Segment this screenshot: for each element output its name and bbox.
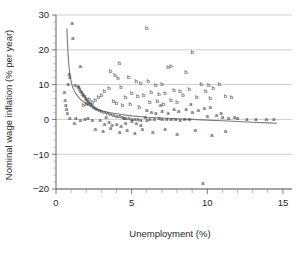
data-point-a: a: [224, 127, 228, 134]
data-point-a: a: [227, 114, 231, 121]
data-point-a: a: [272, 115, 276, 122]
data-point-b: b: [116, 74, 120, 81]
data-point-b: b: [124, 93, 128, 100]
data-point-a: a: [215, 111, 219, 118]
data-point-b: b: [209, 94, 213, 101]
data-point-a: a: [203, 104, 207, 111]
y-tick-label: 10: [38, 79, 49, 90]
data-point-b: b: [103, 87, 107, 94]
data-point-b: b: [137, 103, 141, 110]
data-point-a: a: [163, 125, 167, 132]
x-tick-label: 10: [202, 197, 213, 208]
data-point-a: a: [236, 114, 240, 121]
data-point-a: a: [166, 109, 170, 116]
data-point-a: a: [206, 112, 210, 119]
data-point-b: b: [109, 67, 113, 74]
data-point-b: b: [147, 77, 151, 84]
data-point-b: b: [139, 79, 143, 86]
data-point-a: a: [184, 105, 188, 112]
data-point-b: b: [162, 100, 166, 107]
data-point-b: b: [150, 88, 154, 95]
data-point-a: a: [144, 113, 148, 120]
data-point-a: a: [169, 115, 173, 122]
data-point-b: b: [190, 48, 194, 55]
data-point-a: a: [233, 113, 237, 120]
data-point-a: a: [134, 119, 138, 126]
data-point-a: a: [125, 126, 129, 133]
data-point-a: a: [71, 34, 75, 41]
data-point-b: b: [204, 87, 208, 94]
data-point-a: a: [160, 107, 164, 114]
data-point-b: b: [100, 91, 104, 98]
data-point-b: b: [94, 96, 98, 103]
y-tick-label: 30: [38, 9, 49, 20]
data-point-b: b: [82, 101, 86, 108]
x-tick-label: 5: [129, 197, 134, 208]
data-point-b: b: [160, 80, 164, 87]
data-point-b: b: [121, 101, 125, 108]
data-point-a: a: [196, 106, 200, 113]
data-point-b: b: [130, 89, 134, 96]
data-point-a: a: [115, 120, 119, 127]
data-point-b: b: [148, 98, 152, 105]
y-tick-label: 20: [38, 44, 49, 55]
data-point-b: b: [145, 24, 149, 31]
data-point-b: b: [187, 85, 191, 92]
data-point-b: b: [91, 98, 95, 105]
data-point-a: a: [141, 125, 145, 132]
data-point-a: a: [265, 115, 269, 122]
data-point-b: b: [169, 62, 173, 69]
data-point-b: b: [230, 93, 234, 100]
data-point-b: b: [136, 92, 140, 99]
data-point-a: a: [210, 131, 214, 138]
data-point-a: a: [183, 115, 187, 122]
data-point-a: a: [150, 108, 154, 115]
data-point-a: a: [86, 114, 90, 121]
data-point-a: a: [209, 103, 213, 110]
data-point-a: a: [72, 119, 76, 126]
data-point-b: b: [184, 68, 188, 75]
data-point-a: a: [63, 88, 67, 95]
data-point-b: b: [172, 86, 176, 93]
data-point-a: a: [118, 128, 122, 135]
data-point-a: a: [109, 124, 113, 131]
data-point-a: a: [174, 115, 178, 122]
data-point-b: b: [118, 59, 122, 66]
data-point-b: b: [128, 100, 132, 107]
data-point-b: b: [169, 96, 173, 103]
data-point-a: a: [151, 128, 155, 135]
data-point-b: b: [127, 73, 131, 80]
data-point-b: b: [212, 84, 216, 91]
data-point-a: a: [94, 125, 98, 132]
data-point-a: a: [148, 115, 152, 122]
data-point-a: a: [91, 116, 95, 123]
data-point-a: a: [254, 115, 258, 122]
data-point-a: a: [245, 115, 249, 122]
data-point-b: b: [134, 77, 138, 84]
x-tick-label: 15: [278, 197, 289, 208]
y-tick-label: 0: [44, 114, 49, 125]
data-point-b: b: [175, 98, 179, 105]
data-point-a: a: [193, 126, 197, 133]
data-point-b: b: [224, 92, 228, 99]
data-point-a: a: [98, 116, 102, 123]
data-point-b: b: [107, 84, 111, 91]
data-point-b: b: [163, 89, 167, 96]
x-tick-label: 0: [53, 197, 58, 208]
data-point-a: a: [172, 105, 176, 112]
data-point-b: b: [115, 99, 119, 106]
data-point-a: a: [177, 107, 181, 114]
data-point-a: a: [190, 108, 194, 115]
x-axis-title: Unemployment (%): [129, 228, 210, 239]
data-point-b: b: [156, 97, 160, 104]
data-point-a: a: [189, 100, 193, 107]
data-point-a: a: [133, 129, 137, 136]
data-point-a: a: [68, 114, 72, 121]
data-point-a: a: [175, 130, 179, 137]
data-point-b: b: [200, 80, 204, 87]
data-point-b: b: [142, 91, 146, 98]
y-tick-label: −10: [33, 149, 49, 160]
data-point-b: b: [157, 90, 161, 97]
data-point-b: b: [88, 95, 92, 102]
scatter-plot-figure: aaaaaaaaaaaaaaaaaaaaaaaaaaaaaaaaaaaaaaaa…: [0, 0, 304, 257]
